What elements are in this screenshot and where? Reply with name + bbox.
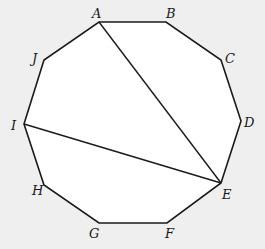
vertex-label-g: G bbox=[89, 226, 99, 241]
vertex-label-a: A bbox=[91, 6, 101, 21]
vertex-label-e: E bbox=[221, 187, 232, 202]
vertex-label-c: C bbox=[225, 51, 235, 66]
vertex-label-i: I bbox=[10, 118, 17, 133]
vertex-label-d: D bbox=[243, 115, 255, 130]
vertex-label-h: H bbox=[31, 183, 44, 198]
vertex-label-b: B bbox=[165, 6, 176, 21]
decagon-outline bbox=[24, 22, 241, 223]
vertex-label-j: J bbox=[29, 51, 38, 66]
decagon-diagram: A B C D E F G H I J bbox=[0, 0, 265, 249]
vertex-label-f: F bbox=[164, 226, 175, 241]
